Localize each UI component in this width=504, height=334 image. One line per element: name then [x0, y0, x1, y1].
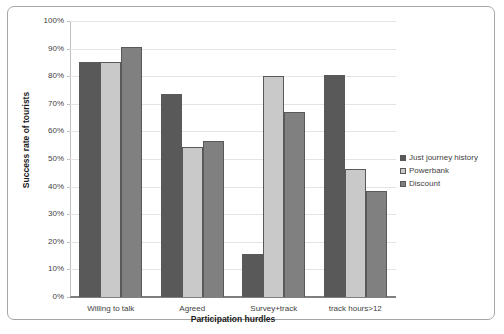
bar[interactable]	[242, 254, 263, 297]
legend-swatch-icon	[400, 155, 406, 161]
legend-item[interactable]: Discount	[400, 180, 478, 188]
bar-group: track hours>12	[315, 21, 397, 297]
bar[interactable]	[121, 47, 142, 297]
y-tick-label: 0%	[52, 293, 64, 301]
bar[interactable]	[324, 75, 345, 297]
bar-group: Survey+track	[233, 21, 315, 297]
chart-frame: Success rate of tourists 0%10%20%30%40%5…	[7, 6, 495, 320]
chart-screenshot: Success rate of tourists 0%10%20%30%40%5…	[0, 0, 504, 334]
plot-area: 0%10%20%30%40%50%60%70%80%90%100% Willin…	[70, 21, 396, 297]
x-tick-label: Willing to talk	[70, 304, 152, 313]
y-tick-label: 70%	[48, 100, 64, 108]
y-tick-mark	[67, 297, 70, 298]
bar[interactable]	[263, 76, 284, 297]
legend-swatch-icon	[400, 181, 406, 187]
y-tick-label: 100%	[44, 17, 64, 25]
x-tick-label: Survey+track	[233, 304, 315, 313]
x-axis-title: Participation hurdles	[70, 314, 396, 324]
x-tick-label: Agreed	[152, 304, 234, 313]
bar-group: Willing to talk	[70, 21, 152, 297]
legend-label: Discount	[409, 180, 440, 188]
chart-legend: Just journey historyPowerbankDiscount	[400, 154, 478, 188]
gridline	[70, 297, 396, 298]
y-tick-label: 40%	[48, 183, 64, 191]
bar[interactable]	[79, 62, 100, 297]
bar-groups: Willing to talkAgreedSurvey+tracktrack h…	[70, 21, 396, 297]
legend-label: Powerbank	[409, 167, 449, 175]
bar[interactable]	[284, 112, 305, 297]
bar[interactable]	[161, 94, 182, 297]
y-axis-title: Success rate of tourists	[21, 60, 31, 220]
bar[interactable]	[366, 191, 387, 297]
bar-group: Agreed	[152, 21, 234, 297]
y-tick-label: 20%	[48, 238, 64, 246]
legend-item[interactable]: Powerbank	[400, 167, 478, 175]
x-tick-label: track hours>12	[315, 304, 397, 313]
bar[interactable]	[345, 169, 366, 297]
legend-swatch-icon	[400, 168, 406, 174]
y-tick-label: 50%	[48, 155, 64, 163]
y-tick-label: 60%	[48, 127, 64, 135]
bar[interactable]	[100, 62, 121, 297]
bar[interactable]	[182, 147, 203, 297]
y-tick-label: 10%	[48, 265, 64, 273]
legend-label: Just journey history	[409, 154, 478, 162]
bar[interactable]	[203, 141, 224, 297]
y-tick-label: 30%	[48, 210, 64, 218]
legend-item[interactable]: Just journey history	[400, 154, 478, 162]
y-tick-label: 80%	[48, 72, 64, 80]
y-tick-label: 90%	[48, 45, 64, 53]
